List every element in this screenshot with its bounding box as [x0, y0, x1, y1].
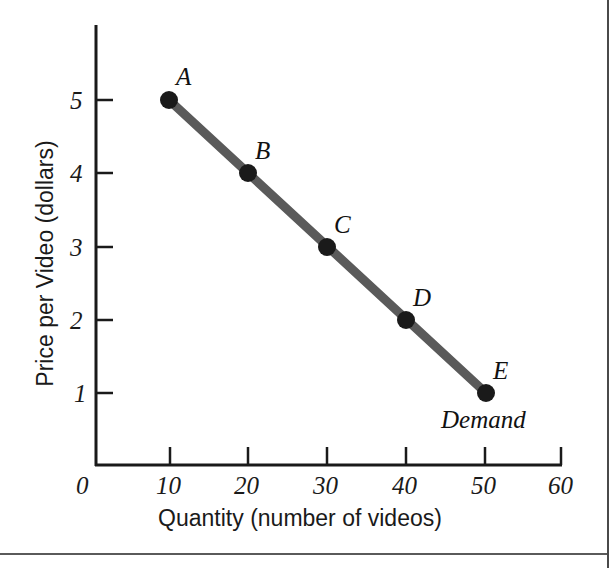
x-axis-ticks — [170, 447, 561, 465]
data-point-c — [318, 238, 336, 256]
x-tick-label-50: 50 — [471, 473, 496, 498]
page-frame-bottom-rule — [0, 553, 607, 555]
data-point-a — [160, 91, 178, 109]
page-frame-right-rule — [607, 0, 609, 568]
x-tick-label-30: 30 — [313, 473, 338, 498]
point-label-d: D — [413, 285, 431, 310]
x-tick-label-60: 60 — [548, 473, 573, 498]
point-label-b: B — [255, 138, 270, 163]
x-axis-title: Quantity (number of videos) — [0, 505, 600, 532]
data-point-d — [397, 311, 415, 329]
data-point-e — [477, 384, 495, 402]
y-tick-label-2: 2 — [70, 308, 83, 333]
y-tick-label-1: 1 — [74, 381, 87, 406]
point-label-a: A — [176, 64, 191, 89]
data-point-b — [239, 164, 257, 182]
y-axis-ticks — [96, 100, 113, 393]
x-tick-label-40: 40 — [392, 473, 417, 498]
y-axis-title: Price per Video (dollars) — [32, 114, 59, 414]
point-label-e: E — [493, 358, 508, 383]
demand-curve-label: Demand — [441, 407, 526, 432]
y-tick-label-5: 5 — [70, 88, 83, 113]
x-tick-label-20: 20 — [234, 473, 259, 498]
y-tick-label-4: 4 — [70, 161, 83, 186]
demand-curve-figure: 5 4 3 2 1 0 10 20 30 40 50 60 A B C D E … — [0, 0, 613, 568]
chart-plot-area — [0, 0, 613, 568]
x-tick-label-0: 0 — [76, 473, 89, 498]
y-tick-label-3: 3 — [70, 235, 83, 260]
point-label-c: C — [334, 212, 351, 237]
x-tick-label-10: 10 — [156, 473, 181, 498]
